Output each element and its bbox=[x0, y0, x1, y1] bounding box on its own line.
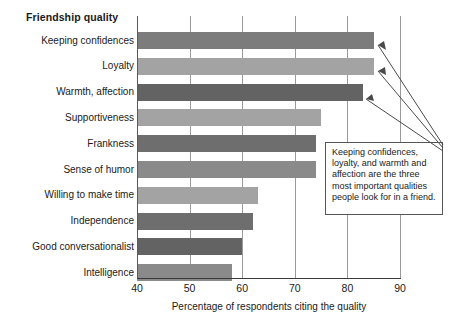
x-tick-label-80: 80 bbox=[332, 282, 362, 294]
x-tick-label-50: 50 bbox=[175, 282, 205, 294]
bar bbox=[137, 32, 374, 49]
x-tick-label-70: 70 bbox=[280, 282, 310, 294]
category-label: Sense of humor bbox=[2, 165, 134, 175]
x-tick-label-40: 40 bbox=[122, 282, 152, 294]
category-label-column: Keeping confidencesLoyaltyWarmth, affect… bbox=[0, 0, 134, 324]
bar bbox=[137, 58, 374, 75]
y-axis-line bbox=[137, 16, 138, 278]
bar bbox=[137, 161, 316, 178]
x-axis-line bbox=[137, 278, 401, 279]
bar bbox=[137, 213, 253, 230]
bar bbox=[137, 84, 363, 101]
category-label: Willing to make time bbox=[2, 190, 134, 200]
category-label: Supportiveness bbox=[2, 113, 134, 123]
category-label: Intelligence bbox=[2, 268, 134, 278]
category-label: Frankness bbox=[2, 139, 134, 149]
x-axis-title: Percentage of respondents citing the qua… bbox=[137, 301, 401, 312]
category-label: Warmth, affection bbox=[2, 87, 134, 97]
category-label: Keeping confidences bbox=[2, 36, 134, 46]
category-label: Loyalty bbox=[2, 61, 134, 71]
bar bbox=[137, 238, 242, 255]
category-label: Independence bbox=[2, 216, 134, 226]
bar-chart: Friendship quality Keeping confidencesLo… bbox=[0, 0, 467, 324]
x-tick-label-90: 90 bbox=[385, 282, 415, 294]
x-tick-label-60: 60 bbox=[227, 282, 257, 294]
bar bbox=[137, 135, 316, 152]
category-label: Good conversationalist bbox=[2, 242, 134, 252]
bar bbox=[137, 109, 321, 126]
annotation-callout: Keeping confidences, loyalty, and warmth… bbox=[325, 142, 443, 215]
annotation-text: Keeping confidences, loyalty, and warmth… bbox=[332, 147, 437, 203]
bar bbox=[137, 187, 258, 204]
